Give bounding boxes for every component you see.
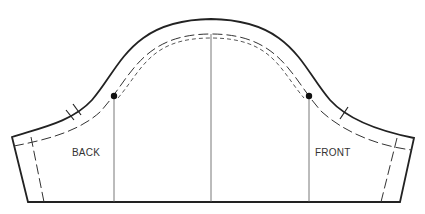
back-dot [111, 93, 117, 99]
front-seam-allowance-line [381, 138, 397, 202]
back-seam-allowance-line [31, 137, 44, 202]
back-label: BACK [72, 147, 100, 158]
seam-line-long-dash [14, 34, 412, 150]
outer-cutting-line [12, 19, 414, 202]
sleeve-pattern-diagram: BACK FRONT [0, 0, 425, 214]
front-dot [306, 93, 312, 99]
front-label: FRONT [315, 147, 350, 158]
